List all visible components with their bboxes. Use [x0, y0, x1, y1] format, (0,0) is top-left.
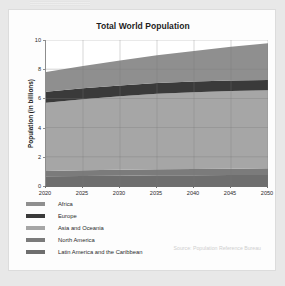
legend-label: Africa — [58, 201, 73, 207]
legend-swatch — [26, 226, 45, 230]
x-axis-tick — [119, 186, 120, 188]
legend-label: Latin America and the Caribbean — [58, 249, 142, 255]
x-axis-tick — [82, 186, 83, 188]
legend-swatch — [26, 202, 45, 206]
scan-artifact — [30, 1, 90, 6]
legend-item: Asia and Oceania — [26, 222, 256, 234]
y-axis-tick-label: 2 — [38, 154, 41, 160]
x-axis-tick — [230, 186, 231, 188]
y-axis-tick — [43, 40, 45, 41]
x-axis-tick-label: 2020 — [39, 190, 51, 196]
plot-area — [45, 40, 268, 187]
legend-label: North America — [58, 237, 95, 243]
x-axis-tick — [156, 186, 157, 188]
x-axis-tick-label: 2035 — [150, 190, 162, 196]
stacked-area-svg — [46, 40, 268, 186]
legend-label: Europe — [58, 213, 77, 219]
y-axis-tick — [43, 69, 45, 70]
chart-title: Total World Population — [9, 21, 277, 31]
x-axis-tick — [45, 186, 46, 188]
x-axis-tick — [193, 186, 194, 188]
legend-label: Asia and Oceania — [58, 225, 104, 231]
y-axis-tick-label: 0 — [38, 183, 41, 189]
y-axis-tick — [43, 98, 45, 99]
y-axis-title-label: Population (in billions) — [27, 79, 34, 148]
y-axis-title: Population (in billions) — [25, 40, 35, 186]
x-axis-tick-label: 2050 — [261, 190, 273, 196]
x-axis-tick — [267, 186, 268, 188]
chart-card: Total World Population Population (in bi… — [8, 9, 276, 271]
x-axis-tick-label: 2030 — [113, 190, 125, 196]
chart-area: 02468102020202520302035204020452050 — [45, 40, 267, 186]
legend-swatch — [26, 250, 45, 254]
x-axis-tick-label: 2025 — [76, 190, 88, 196]
y-axis-tick-label: 10 — [35, 37, 41, 43]
y-axis-tick — [43, 128, 45, 129]
y-axis-tick-label: 4 — [38, 125, 41, 131]
x-axis-tick-label: 2040 — [187, 190, 199, 196]
screenshot-page: Total World Population Population (in bi… — [0, 0, 285, 286]
legend-item: Africa — [26, 198, 256, 210]
source-note: Source: Population Reference Bureau — [174, 245, 261, 251]
legend-swatch — [26, 214, 45, 218]
legend-swatch — [26, 238, 45, 242]
y-axis-tick — [43, 157, 45, 158]
legend-item: Europe — [26, 210, 256, 222]
y-axis-tick-label: 6 — [38, 95, 41, 101]
y-axis-tick-label: 8 — [38, 66, 41, 72]
x-axis-tick-label: 2045 — [224, 190, 236, 196]
